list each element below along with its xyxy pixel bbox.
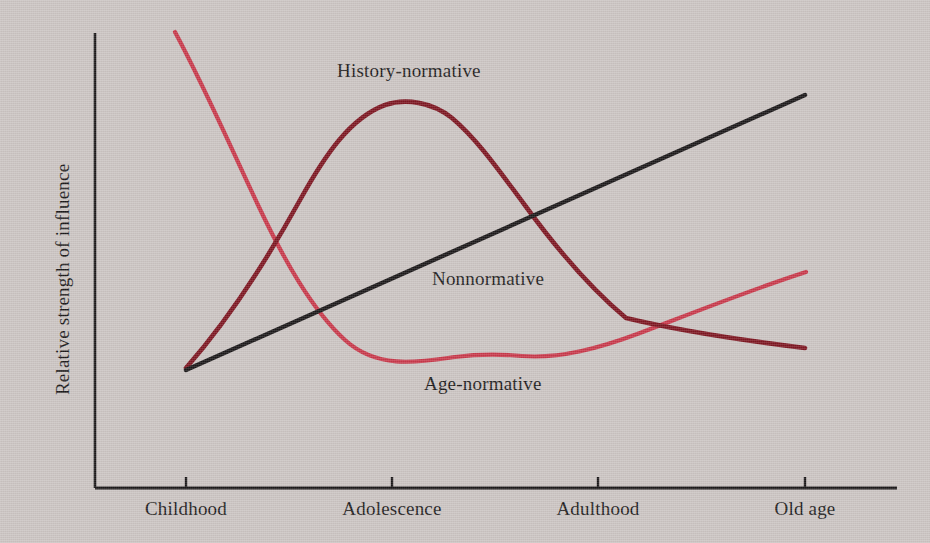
series-line-age-normative [175,32,806,362]
y-axis-label: Relative strength of influence [52,164,74,395]
x-tick-label-adulthood: Adulthood [556,498,639,520]
chart-figure: Relative strength of influence Childhood… [0,0,930,543]
series-label-history-normative: History-normative [337,60,481,82]
x-tick-label-childhood: Childhood [145,498,227,520]
series-label-age-normative: Age-normative [424,373,542,395]
x-tick-label-old-age: Old age [774,498,835,520]
series-label-nonnormative: Nonnormative [432,268,544,290]
x-tick-label-adolescence: Adolescence [342,498,441,520]
